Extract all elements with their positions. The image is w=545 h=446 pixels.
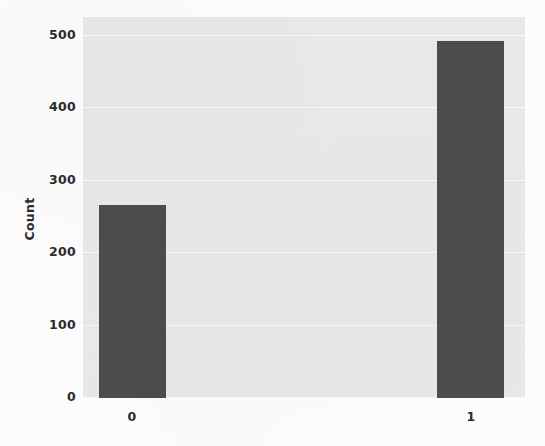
bar-chart-figure: Count 500 400 300 200 100 0 0 1 xyxy=(0,0,545,446)
y-tick-label-300: 300 xyxy=(49,174,76,187)
y-tick-label-500: 500 xyxy=(49,29,76,42)
bar-category-0 xyxy=(99,205,166,398)
plot-area xyxy=(83,17,525,398)
gridline-500 xyxy=(83,35,525,36)
y-axis-tick-labels: 500 400 300 200 100 0 xyxy=(0,0,76,446)
y-tick-label-100: 100 xyxy=(49,319,76,332)
bar-category-1 xyxy=(437,41,504,398)
y-tick-label-200: 200 xyxy=(49,246,76,259)
x-tick-label-0: 0 xyxy=(102,411,162,424)
x-tick-label-1: 1 xyxy=(441,411,501,424)
y-tick-label-400: 400 xyxy=(49,101,76,114)
y-tick-label-0: 0 xyxy=(67,391,76,404)
